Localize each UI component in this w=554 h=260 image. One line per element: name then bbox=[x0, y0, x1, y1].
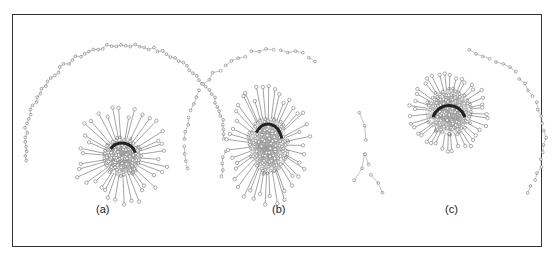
panel-label-a: (a) bbox=[96, 203, 109, 215]
panel-label-c: (c) bbox=[445, 203, 458, 215]
network-figure bbox=[0, 0, 554, 260]
panel-label-b: (b) bbox=[272, 203, 285, 215]
